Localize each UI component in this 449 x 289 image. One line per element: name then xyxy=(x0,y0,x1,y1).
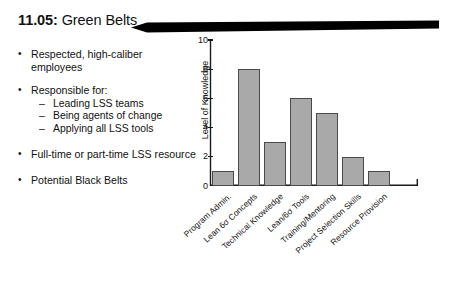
list-item: • Respected, high-caliber employees xyxy=(16,48,196,73)
bar-slot xyxy=(210,40,236,186)
bar xyxy=(342,157,365,186)
y-tick-label: 0 xyxy=(194,182,208,191)
bar-slot xyxy=(288,40,314,186)
sub-list-item-text: Leading LSS teams xyxy=(53,98,144,109)
list-item: • Potential Black Belts xyxy=(16,174,196,187)
slide-title-bar: 11.05: Green Belts xyxy=(0,12,449,38)
page-title: 11.05: Green Belts xyxy=(18,12,137,28)
y-axis-ticks: 0246810 xyxy=(186,40,208,192)
bullet-glyph: • xyxy=(18,174,22,187)
list-item-text: Respected, high-caliber employees xyxy=(31,48,142,73)
bar xyxy=(264,142,287,186)
bullet-glyph: • xyxy=(18,148,22,161)
list-item-text: Potential Black Belts xyxy=(31,174,128,186)
bar-slot xyxy=(314,40,340,186)
dash-glyph: – xyxy=(39,123,45,135)
title-arrow-icon xyxy=(131,20,439,34)
sub-bullet-list: – Leading LSS teams – Being agents of ch… xyxy=(31,98,196,135)
bar xyxy=(290,98,313,186)
y-tick-label: 8 xyxy=(194,65,208,74)
bullet-list: • Respected, high-caliber employees • Re… xyxy=(16,48,196,197)
y-tick-label: 10 xyxy=(194,36,208,45)
slide-number: 11.05: xyxy=(18,12,58,28)
sub-list-item-text: Applying all LSS tools xyxy=(53,123,154,134)
y-tick-label: 4 xyxy=(194,123,208,132)
slide-title-text: Green Belts xyxy=(62,12,137,28)
bar xyxy=(368,171,391,186)
plot-area xyxy=(210,40,420,186)
bar-slot xyxy=(366,40,392,186)
bullet-glyph: • xyxy=(18,48,22,61)
bar xyxy=(212,171,235,186)
y-tick-label: 6 xyxy=(194,94,208,103)
dash-glyph: – xyxy=(39,110,45,122)
sub-list-item: – Applying all LSS tools xyxy=(39,123,196,135)
list-item: • Responsible for: – Leading LSS teams –… xyxy=(16,84,196,135)
bar xyxy=(238,69,261,186)
sub-list-item: – Being agents of change xyxy=(39,110,196,122)
dash-glyph: – xyxy=(39,98,45,110)
bullet-glyph: • xyxy=(18,84,22,97)
bar-slot xyxy=(262,40,288,186)
bar-series xyxy=(210,40,392,186)
sub-list-item-text: Being agents of change xyxy=(53,110,162,121)
bar-chart: Level of Knowledge 0246810 Program Admin… xyxy=(186,40,444,285)
bar xyxy=(316,113,339,186)
list-item-text: Full-time or part-time LSS resource xyxy=(31,148,196,160)
y-tick-label: 2 xyxy=(194,152,208,161)
sub-list-item: – Leading LSS teams xyxy=(39,98,196,110)
list-item: • Full-time or part-time LSS resource xyxy=(16,148,196,161)
list-item-text: Responsible for: xyxy=(31,84,108,96)
bar-slot xyxy=(236,40,262,186)
bar-slot xyxy=(340,40,366,186)
x-axis-labels: Program Admin.Lean 6σ ConceptsTechnical … xyxy=(210,190,420,285)
